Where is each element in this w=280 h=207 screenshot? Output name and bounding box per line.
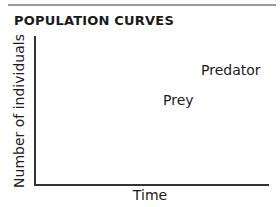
prey-label: Prey: [163, 92, 194, 108]
x-axis-line: [34, 184, 269, 186]
x-axis-label: Time: [133, 187, 167, 203]
top-divider: [8, 4, 276, 6]
figure-title: POPULATION CURVES: [14, 13, 174, 28]
y-axis-label: Number of individuals: [11, 34, 27, 188]
y-axis-line: [34, 36, 36, 186]
predator-label: Predator: [201, 62, 261, 78]
